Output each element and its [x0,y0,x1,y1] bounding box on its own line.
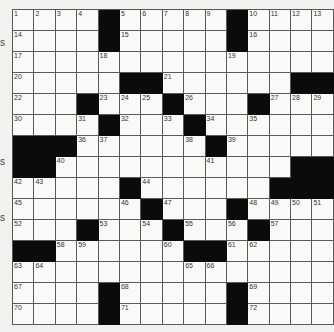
grid-cell[interactable]: 45 [13,199,34,220]
grid-cell[interactable] [206,73,227,94]
grid-cell[interactable] [227,178,248,199]
grid-cell[interactable]: 33 [163,115,184,136]
grid-cell[interactable]: 68 [120,283,141,304]
grid-cell[interactable] [248,52,269,73]
grid-cell[interactable] [291,115,312,136]
grid-cell[interactable]: 8 [184,10,205,31]
grid-cell[interactable]: 34 [206,115,227,136]
grid-cell[interactable] [248,178,269,199]
grid-cell[interactable]: 7 [163,10,184,31]
grid-cell[interactable] [291,31,312,52]
grid-cell[interactable] [56,178,77,199]
grid-cell[interactable]: 59 [77,241,98,262]
grid-cell[interactable] [99,178,120,199]
grid-cell[interactable] [120,52,141,73]
grid-cell[interactable]: 65 [184,262,205,283]
grid-cell[interactable] [291,220,312,241]
grid-cell[interactable]: 71 [120,304,141,325]
grid-cell[interactable] [141,262,162,283]
grid-cell[interactable] [99,262,120,283]
grid-cell[interactable] [312,283,333,304]
grid-cell[interactable]: 52 [13,220,34,241]
grid-cell[interactable] [227,115,248,136]
grid-cell[interactable] [206,31,227,52]
grid-cell[interactable]: 23 [99,94,120,115]
grid-cell[interactable] [270,73,291,94]
grid-cell[interactable]: 3 [56,10,77,31]
grid-cell[interactable] [184,73,205,94]
grid-cell[interactable] [291,262,312,283]
grid-cell[interactable] [270,304,291,325]
grid-cell[interactable] [312,115,333,136]
grid-cell[interactable] [120,241,141,262]
grid-cell[interactable] [34,283,55,304]
grid-cell[interactable] [312,136,333,157]
grid-cell[interactable] [141,304,162,325]
grid-cell[interactable] [56,220,77,241]
grid-cell[interactable] [34,31,55,52]
grid-cell[interactable] [206,178,227,199]
grid-cell[interactable]: 70 [13,304,34,325]
grid-cell[interactable]: 19 [227,52,248,73]
grid-cell[interactable]: 48 [248,199,269,220]
grid-cell[interactable]: 69 [248,283,269,304]
grid-cell[interactable]: 58 [56,241,77,262]
grid-cell[interactable]: 60 [163,241,184,262]
grid-cell[interactable] [312,262,333,283]
grid-cell[interactable]: 37 [99,136,120,157]
grid-cell[interactable]: 27 [270,94,291,115]
grid-cell[interactable] [312,220,333,241]
grid-cell[interactable]: 55 [184,220,205,241]
grid-cell[interactable] [77,262,98,283]
grid-cell[interactable]: 42 [13,178,34,199]
grid-cell[interactable]: 21 [163,73,184,94]
grid-cell[interactable] [291,241,312,262]
grid-cell[interactable]: 2 [34,10,55,31]
grid-cell[interactable] [120,262,141,283]
grid-cell[interactable]: 39 [227,136,248,157]
grid-cell[interactable] [291,304,312,325]
grid-cell[interactable] [77,178,98,199]
grid-cell[interactable]: 62 [248,241,269,262]
grid-cell[interactable]: 35 [248,115,269,136]
grid-cell[interactable] [163,283,184,304]
grid-cell[interactable] [120,136,141,157]
grid-cell[interactable] [77,199,98,220]
grid-cell[interactable] [163,304,184,325]
grid-cell[interactable]: 10 [248,10,269,31]
grid-cell[interactable] [34,94,55,115]
grid-cell[interactable] [163,52,184,73]
grid-cell[interactable] [141,283,162,304]
grid-cell[interactable] [184,178,205,199]
grid-cell[interactable]: 44 [141,178,162,199]
grid-cell[interactable]: 25 [141,94,162,115]
grid-cell[interactable] [184,31,205,52]
grid-cell[interactable]: 9 [206,10,227,31]
grid-cell[interactable] [163,31,184,52]
grid-cell[interactable] [270,52,291,73]
grid-cell[interactable] [248,157,269,178]
grid-cell[interactable] [184,157,205,178]
grid-cell[interactable] [56,115,77,136]
grid-cell[interactable]: 29 [312,94,333,115]
grid-cell[interactable] [56,262,77,283]
grid-cell[interactable] [227,73,248,94]
grid-cell[interactable] [312,304,333,325]
grid-cell[interactable] [270,262,291,283]
grid-cell[interactable]: 51 [312,199,333,220]
grid-cell[interactable] [270,136,291,157]
grid-cell[interactable] [141,241,162,262]
grid-cell[interactable] [248,262,269,283]
grid-cell[interactable] [163,157,184,178]
grid-cell[interactable] [56,199,77,220]
grid-cell[interactable] [56,283,77,304]
grid-cell[interactable] [34,304,55,325]
grid-cell[interactable] [312,241,333,262]
grid-cell[interactable] [206,283,227,304]
grid-cell[interactable]: 63 [13,262,34,283]
grid-cell[interactable] [270,115,291,136]
grid-cell[interactable] [56,94,77,115]
grid-cell[interactable] [56,73,77,94]
grid-cell[interactable]: 6 [141,10,162,31]
grid-cell[interactable]: 22 [13,94,34,115]
